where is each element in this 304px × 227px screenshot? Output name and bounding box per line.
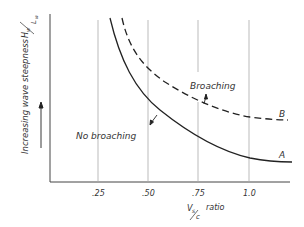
arrow-up-icon bbox=[39, 102, 43, 148]
svg-text:w: w bbox=[25, 27, 31, 32]
arrow-no-broaching-icon bbox=[150, 115, 157, 125]
gridlines bbox=[98, 20, 249, 182]
y-ratio-label: H w L w bbox=[20, 14, 39, 38]
svg-text:L: L bbox=[30, 20, 38, 24]
arrow-broaching-icon bbox=[204, 94, 208, 104]
x-tick-label: .75 bbox=[192, 189, 205, 198]
y-axis-label: Increasing wave steepness bbox=[20, 38, 30, 154]
x-axis-label: V s c ratio bbox=[187, 203, 225, 221]
broaching-label: Broaching bbox=[190, 81, 236, 91]
curve-a-label: A bbox=[278, 150, 285, 160]
x-tick-label: 1.0 bbox=[243, 189, 256, 198]
curve-b bbox=[122, 18, 288, 120]
x-tick-label: .50 bbox=[142, 189, 155, 198]
x-tick-label: .25 bbox=[92, 189, 105, 198]
svg-text:s: s bbox=[192, 207, 195, 214]
no-broaching-label: No broaching bbox=[76, 131, 136, 141]
svg-text:ratio: ratio bbox=[206, 203, 225, 212]
svg-text:Increasing wave steepness: Increasing wave steepness bbox=[20, 38, 30, 154]
chart: Broaching No broaching A B .25 .50 .75 1… bbox=[0, 0, 304, 227]
curve-b-label: B bbox=[279, 109, 285, 119]
svg-text:c: c bbox=[196, 213, 200, 221]
svg-text:w: w bbox=[33, 14, 39, 19]
